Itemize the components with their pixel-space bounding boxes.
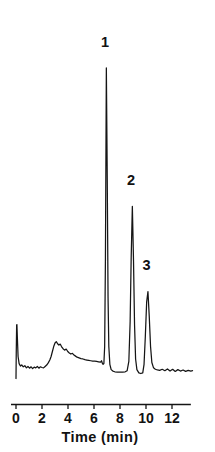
- chromatogram-plot: 024681012 Time (min) 123: [0, 0, 215, 452]
- x-axis-tick-label: 10: [138, 410, 154, 426]
- x-axis-tick-label: 6: [90, 410, 98, 426]
- x-axis-tick-label: 4: [64, 410, 72, 426]
- x-axis-tick-label: 2: [38, 410, 46, 426]
- peak-label-1: 1: [101, 34, 109, 50]
- x-axis-title: Time (min): [61, 429, 138, 445]
- peak-label-3: 3: [143, 257, 151, 273]
- x-axis-tick-label: 0: [12, 410, 20, 426]
- peak-label-2: 2: [127, 172, 135, 188]
- x-axis-tick-label: 12: [164, 410, 180, 426]
- x-axis-tick-label: 8: [116, 410, 124, 426]
- chromatogram-figure: 024681012 Time (min) 123: [0, 0, 215, 452]
